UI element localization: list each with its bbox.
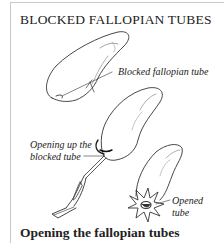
blocked-tube-illustration [46,32,128,102]
label-opened-tube-line1: Opened [172,195,203,207]
label-opening-tube-line1: Opening up the [30,139,92,151]
label-opening-tube-line2: blocked tube [30,151,81,163]
label-blocked-tube: Blocked fallopian tube [118,66,209,78]
figure-caption: Opening the fallopian tubes [20,225,179,241]
label-opened-tube-line2: tube [172,207,189,219]
